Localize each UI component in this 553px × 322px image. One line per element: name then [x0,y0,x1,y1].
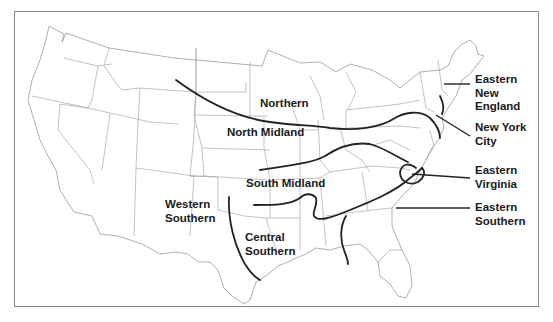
new-england-boundary [440,96,443,114]
state-lines [32,48,448,262]
south-midland-north-boundary [260,144,408,171]
label-new-york-city: New York City [475,121,526,148]
label-north-midland: North Midland [227,126,304,140]
label-central-southern: Central Southern [245,231,295,258]
label-eastern-virginia: Eastern Virginia [475,164,517,191]
label-northern: Northern [260,97,309,111]
us-outline [28,26,484,304]
label-south-midland: South Midland [246,177,325,191]
label-eastern-new-england: Eastern New England [475,73,520,114]
label-eastern-southern: Eastern Southern [475,201,525,228]
us-dialect-map [0,0,553,322]
label-western-southern: Western Southern [165,198,215,225]
eastern-southern-boundary [341,216,348,264]
south-midland-south-boundary [254,168,422,219]
